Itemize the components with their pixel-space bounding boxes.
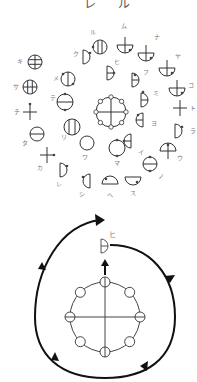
symbol-ra: ラ (175, 124, 196, 138)
symbol-re: レ (56, 163, 68, 187)
arrowhead-top-icon (95, 214, 105, 226)
symbol-ta: タ (22, 127, 44, 146)
svg-text:ラ: ラ (190, 127, 196, 134)
lower-wheel (65, 277, 145, 357)
svg-text:ナ: ナ (154, 33, 160, 40)
title-char-1: レ (84, 0, 96, 11)
svg-text:シ: シ (79, 190, 85, 197)
center-wheel (94, 95, 128, 129)
svg-text:ス: ス (130, 189, 136, 196)
svg-text:レ: レ (56, 180, 62, 187)
target-symbol-hi: ヒ (101, 231, 116, 253)
svg-text:コ: コ (188, 81, 194, 88)
svg-text:サ: サ (13, 83, 19, 90)
svg-text:フ: フ (143, 68, 149, 75)
symbol-he: ヘ (102, 176, 118, 198)
svg-text:ヘ: ヘ (107, 191, 113, 198)
svg-text:ク: ク (73, 50, 79, 57)
symbol-sa: サ (13, 80, 37, 94)
svg-text:ミ: ミ (153, 89, 159, 96)
symbol-wa: ワ (80, 136, 94, 160)
svg-text:ノ: ノ (158, 172, 164, 179)
symbol-te: テ (50, 93, 73, 112)
svg-text:ヒ: ヒ (109, 231, 116, 239)
title: レ ル (84, 0, 130, 11)
lower-diagram: ヒ (35, 214, 175, 378)
arrowhead-right-icon (164, 275, 175, 283)
svg-text:ル: ル (90, 28, 96, 35)
svg-text:ム: ム (121, 22, 127, 29)
symbol-ri: リ (61, 119, 80, 140)
symbol-ki: キ (17, 55, 42, 69)
svg-text:ヒ: ヒ (114, 58, 120, 65)
symbol-fu: フ (132, 68, 149, 87)
symbol-yo: ヨ (136, 113, 157, 127)
symbol-to: ト (173, 100, 196, 116)
title-char-2: ル (118, 0, 130, 11)
kana-symbol-diagram: レ ル ル ム ナ ヤ コ ト ラ ウ ノ ス ヘ シ レ カ タ チ サ キ … (0, 0, 197, 382)
symbol-u: ウ (160, 143, 183, 161)
symbol-ka: カ (37, 147, 55, 171)
symbol-su: ス (125, 177, 141, 196)
symbol-na: ナ (138, 33, 160, 61)
up-arrow-icon (101, 259, 109, 275)
svg-text:マ: マ (114, 159, 120, 166)
svg-text:ト: ト (190, 104, 196, 111)
symbol-mi: ミ (141, 89, 159, 107)
svg-text:キ: キ (17, 57, 23, 64)
symbol-me: メ (53, 72, 75, 86)
symbol-i: イ (123, 134, 144, 155)
svg-text:リ: リ (61, 133, 67, 140)
symbol-mu: ム (117, 22, 133, 53)
svg-text:テ: テ (50, 94, 56, 102)
symbol-ko: コ (169, 80, 194, 96)
svg-text:イ: イ (138, 148, 144, 155)
symbol-ya: ヤ (159, 52, 181, 76)
svg-text:チ: チ (14, 108, 20, 115)
symbol-chi: チ (14, 103, 37, 120)
symbol-ru: ル (90, 28, 107, 54)
symbol-ma: マ (109, 139, 125, 166)
svg-text:タ: タ (22, 139, 28, 146)
svg-text:ヤ: ヤ (175, 52, 181, 59)
svg-text:メ: メ (53, 74, 59, 81)
svg-text:カ: カ (37, 164, 43, 171)
symbol-shi: シ (79, 174, 90, 197)
symbol-ku: ク (73, 50, 91, 64)
symbol-no: ノ (143, 156, 164, 179)
symbol-hi: ヒ (107, 58, 120, 80)
svg-text:ウ: ウ (177, 154, 183, 161)
svg-text:ヨ: ヨ (151, 119, 157, 126)
arrowhead-bottomleft-icon (51, 352, 59, 361)
svg-text:ワ: ワ (82, 153, 88, 160)
